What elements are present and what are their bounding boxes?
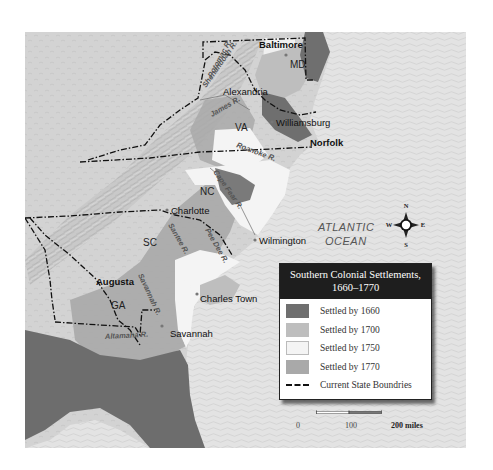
legend-label: Settled by 1660 bbox=[320, 306, 380, 316]
swatch-1700 bbox=[286, 323, 309, 337]
state-label-nc: NC bbox=[200, 186, 214, 197]
ocean-label-line2: OCEAN bbox=[325, 235, 367, 247]
city-norfolk: Norfolk bbox=[310, 137, 344, 148]
state-label-md: MD bbox=[290, 59, 306, 70]
scale-label-200: 200 miles bbox=[391, 421, 423, 430]
city-augusta: Augusta bbox=[96, 276, 135, 287]
city-wilmington: Wilmington bbox=[253, 235, 306, 246]
compass-n: N bbox=[404, 202, 409, 209]
city-charlotte: Charlotte bbox=[165, 205, 209, 216]
scale-label-100: 100 bbox=[345, 421, 357, 430]
swatch-1770 bbox=[286, 360, 309, 374]
city-charles-town: Charles Town bbox=[195, 292, 257, 304]
svg-text:Augusta: Augusta bbox=[96, 276, 135, 287]
legend-label: Current State Boundries bbox=[320, 380, 412, 390]
boundary-line-icon bbox=[286, 384, 309, 386]
state-label-sc: SC bbox=[143, 237, 157, 248]
state-label-ga: GA bbox=[111, 300, 126, 311]
scale-bar-graphic bbox=[297, 410, 401, 415]
compass-e: E bbox=[421, 221, 425, 228]
legend-label: Settled by 1700 bbox=[320, 325, 380, 335]
svg-text:Williamsburg: Williamsburg bbox=[276, 117, 330, 128]
swatch-1660 bbox=[286, 304, 309, 318]
legend-item-1770: Settled by 1770 bbox=[280, 358, 431, 377]
svg-text:Baltimore: Baltimore bbox=[259, 39, 303, 50]
city-williamsburg: Williamsburg bbox=[270, 117, 330, 128]
state-label-va: VA bbox=[235, 122, 248, 133]
svg-text:Savannah: Savannah bbox=[170, 328, 213, 339]
legend-item-boundary: Current State Boundries bbox=[280, 376, 431, 395]
scale-label-0: 0 bbox=[296, 421, 300, 430]
legend-item-1700: Settled by 1700 bbox=[280, 321, 431, 340]
legend-title-line1: Southern Colonial Settlements, bbox=[284, 268, 427, 281]
legend-title: Southern Colonial Settlements, 1660–1770 bbox=[280, 264, 431, 299]
ocean-label-line1: ATLANTIC bbox=[317, 221, 374, 233]
legend-label: Settled by 1770 bbox=[320, 362, 380, 372]
legend-item-1660: Settled by 1660 bbox=[280, 302, 431, 321]
swatch-1750 bbox=[286, 341, 309, 355]
svg-text:Norfolk: Norfolk bbox=[310, 137, 344, 148]
svg-text:Charles Town: Charles Town bbox=[200, 293, 257, 304]
compass-w: W bbox=[386, 221, 393, 228]
compass-s: S bbox=[404, 241, 408, 248]
map-legend: Southern Colonial Settlements, 1660–1770… bbox=[279, 263, 432, 400]
svg-text:Charlotte: Charlotte bbox=[171, 205, 210, 216]
legend-label: Settled by 1750 bbox=[320, 343, 380, 353]
svg-text:Wilmington: Wilmington bbox=[259, 235, 306, 246]
city-alexandria: Alexandria bbox=[223, 86, 269, 97]
legend-item-1750: Settled by 1750 bbox=[280, 339, 431, 358]
legend-title-line2: 1660–1770 bbox=[284, 281, 427, 294]
svg-text:Alexandria: Alexandria bbox=[223, 86, 269, 97]
